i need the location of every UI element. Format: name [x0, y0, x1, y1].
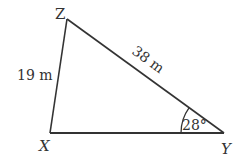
side-label-xz: 19 m — [17, 67, 53, 83]
vertex-label-x: X — [38, 137, 51, 155]
vertex-label-z: Z — [55, 5, 65, 23]
angle-label-y: 28° — [182, 117, 207, 133]
triangle-svg: Z X Y 19 m 38 m 28° — [0, 0, 240, 161]
side-label-zy: 38 m — [129, 42, 167, 76]
side-xz — [50, 19, 67, 133]
vertex-label-y: Y — [221, 140, 233, 158]
triangle-diagram: Z X Y 19 m 38 m 28° — [0, 0, 240, 161]
side-zy — [67, 19, 224, 133]
